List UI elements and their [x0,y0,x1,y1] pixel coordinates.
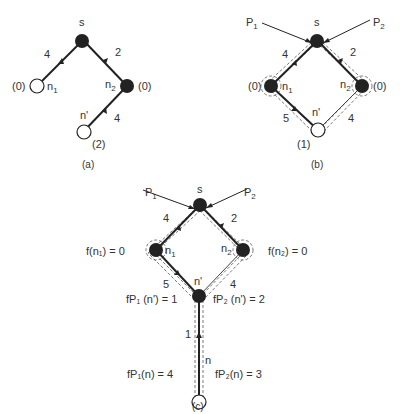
label-n1: n1 [47,80,58,95]
cost-label: 2 [231,212,237,224]
arrow-icon [206,203,213,208]
node-nprime [311,123,325,137]
cost-label: 4 [44,48,50,60]
cost-label: 4 [230,278,236,290]
annotation-fp2-nprime: fP₂ (n') = 2 [213,293,265,305]
arrow-icon [323,38,330,43]
value-nprime: (2) [92,138,105,150]
label-nprime: n' [80,109,88,121]
arrow-icon [196,332,202,338]
cost-label: 2 [115,46,121,58]
cost-label: 1 [185,328,191,340]
label-p1: P1 [246,16,258,31]
diagram-canvas: s 4 2 4 (0) n1 n2 (0) n' (2) (a) P1 P2 [0,0,400,414]
cost-label: 5 [283,112,289,124]
node-n2 [355,79,369,93]
value-nprime: (1) [297,138,310,150]
diagram-b: P1 P2 s 4 2 5 4 (0) n1 n2 (0) n' (1) (b) [246,16,386,170]
node-n2 [120,79,134,93]
label-n1: n1 [165,244,176,259]
caption-a: (a) [82,159,94,170]
node-n2 [236,243,250,257]
node-n1 [264,79,278,93]
label-p2: P2 [244,186,256,201]
cost-label: 5 [163,278,169,290]
annotation-fp1-n: fP₁(n) = 4 [127,368,173,380]
node-s [310,34,324,48]
annotation-f-n2: f(n₂) = 0 [268,245,307,257]
node-n1 [30,79,44,93]
node-s [193,198,207,212]
node-s [75,34,89,48]
label-n2: n2 [340,78,351,93]
annotation-fp1-nprime: fP₁ (n') = 1 [126,293,177,305]
edge-nprime-n2 [199,250,243,296]
label-nprime: n' [312,106,320,118]
label-n: n [205,354,211,366]
value-n1: (0) [248,80,261,92]
label-s: s [314,16,320,28]
caption-c: (c) [192,401,204,412]
node-nprime [192,289,206,303]
diagram-c: P1 P2 s 4 2 5 4 1 n1 n2 n' n f(n₁) = 0 f… [86,183,307,412]
cost-label: 4 [163,212,169,224]
label-s: s [79,16,85,28]
annotation-fp2-n: fP₂(n) = 3 [215,368,262,380]
node-nprime [77,125,91,139]
cost-label: 4 [114,112,120,124]
edge-nprime-n2 [318,86,362,130]
label-s: s [197,183,203,195]
label-p1: P1 [145,186,157,201]
cost-label: 4 [282,48,288,60]
pointer-p2 [323,20,370,43]
caption-b: (b) [311,159,323,170]
label-n1: n1 [282,80,293,95]
pointer-p2 [206,189,247,208]
cost-label: 2 [350,46,356,58]
value-n2: (0) [138,80,151,92]
diagram-a: s 4 2 4 (0) n1 n2 (0) n' (2) (a) [12,16,151,170]
label-p2: P2 [373,16,385,31]
annotation-f-n1: f(n₁) = 0 [86,245,125,257]
value-n2: (0) [373,80,386,92]
label-n2: n2 [105,78,116,93]
value-n1: (0) [12,80,25,92]
label-n2: n2 [221,242,232,257]
node-n1 [149,243,163,257]
cost-label: 4 [348,112,354,124]
label-nprime: n' [194,275,202,287]
pointer-p1 [262,23,312,43]
